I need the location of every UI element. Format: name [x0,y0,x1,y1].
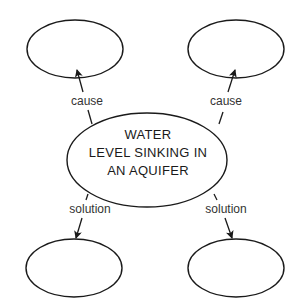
edge-label-solution-right: solution [205,202,246,216]
edge-label-cause-left: cause [71,94,103,108]
solution-node-left [26,239,122,297]
center-node-line-3: AN AQUIFER [107,163,189,178]
solution-node-right [188,239,284,297]
edge-solution-right [214,194,232,238]
center-node-line-1: WATER [125,127,172,142]
edge-label-cause-right: cause [210,94,242,108]
center-node-line-2: LEVEL SINKING IN [89,145,207,160]
concept-map: cause cause solution solution WATER LEVE… [0,0,291,305]
concept-map-svg: cause cause solution solution WATER LEVE… [0,0,291,305]
edge-label-solution-left: solution [69,202,110,216]
cause-node-left [27,20,123,78]
cause-node-right [188,20,284,78]
edge-solution-left [76,194,88,238]
